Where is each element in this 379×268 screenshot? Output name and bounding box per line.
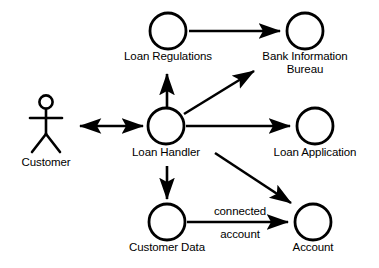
node-label-loan-application: Loan Application	[274, 146, 357, 159]
edge-label-account: account	[220, 228, 260, 240]
node-label-account: Account	[293, 241, 334, 254]
actor-leg-left	[32, 134, 46, 152]
node-customer-data[interactable]	[149, 204, 185, 240]
node-label-loan-regulations: Loan Regulations	[124, 50, 212, 63]
actor-customer[interactable]	[30, 95, 62, 152]
node-loan-regulations[interactable]	[150, 13, 186, 49]
diagram-canvas: Loan Regulations Bank Information Bureau…	[0, 0, 379, 268]
actor-label-customer: Customer	[21, 156, 70, 169]
node-label-customer-data: Customer Data	[129, 241, 205, 254]
node-loan-handler[interactable]	[148, 108, 184, 144]
node-account[interactable]	[295, 204, 331, 240]
actor-head-icon	[39, 95, 52, 108]
edge-loan-handler-to-bank-information-bureau[interactable]	[184, 71, 254, 114]
actor-leg-right	[46, 134, 60, 152]
node-bank-information-bureau[interactable]	[287, 13, 323, 49]
edge-loan-handler-to-account[interactable]	[215, 153, 291, 203]
node-label-loan-handler: Loan Handler	[132, 146, 200, 159]
node-loan-application[interactable]	[297, 108, 333, 144]
edge-label-connected: connected	[214, 205, 266, 217]
node-label-bank-information-bureau: Bank Information Bureau	[262, 50, 347, 75]
diagram-graphics	[0, 0, 379, 268]
